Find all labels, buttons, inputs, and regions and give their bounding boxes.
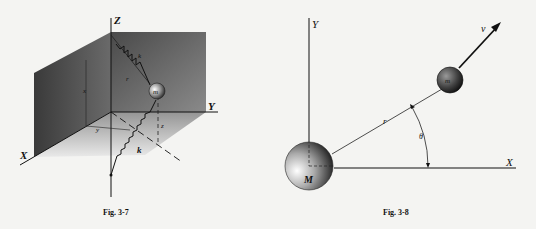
back-wall [111,32,206,112]
caption-fig-3-8: Fig. 3-8 [383,208,409,217]
x-axis-label: X [19,149,28,161]
y-axis-label: Y [312,18,320,30]
figure-3-7: m Z Y X k r x y z k Fig. 3-7 [19,14,218,217]
radius-label: r [383,116,387,126]
small-mass-label: m [445,77,450,85]
r-label: r [126,75,129,83]
arc-arrowhead-bottom [426,163,430,168]
figures-canvas: m Z Y X k r x y z k Fig. 3-7 m [0,0,536,229]
spring-anchor [110,174,113,177]
y-axis-label: Y [208,100,216,112]
big-mass-label: M [303,174,314,185]
arc-arrowhead-top [410,104,415,109]
z-coord-label: z [160,122,164,130]
radius-line [332,89,442,154]
mass-label: m [153,88,158,96]
figure-3-8: m Y X M r θ v Fig. 3-8 [285,18,516,217]
velocity-arrowhead [491,22,501,32]
velocity-label: v [481,23,486,34]
x-axis-label: X [505,156,514,168]
velocity-vector [459,27,497,68]
spring-bottom-k-label: k [137,145,142,155]
theta-label: θ [419,132,423,141]
caption-fig-3-7: Fig. 3-7 [103,208,129,217]
z-axis-label: Z [113,14,121,26]
